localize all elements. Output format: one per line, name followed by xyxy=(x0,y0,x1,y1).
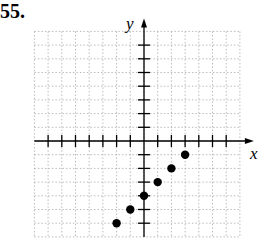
data-point xyxy=(126,205,134,213)
data-point xyxy=(154,178,162,186)
y-axis-label: y xyxy=(124,14,134,33)
scatter-plot: xy xyxy=(0,0,273,240)
data-point xyxy=(181,151,189,159)
x-axis-label: x xyxy=(249,144,258,163)
data-point xyxy=(167,164,175,172)
data-point xyxy=(140,192,148,200)
y-axis-arrow-icon xyxy=(141,18,147,27)
data-point xyxy=(112,219,120,227)
